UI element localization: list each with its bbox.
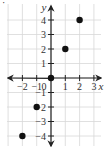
coordinate-plane: −2−101234321−1−2−3−4xy · [0,0,108,149]
x-tick-label: 2 [77,81,82,92]
y-tick-label: 3 [41,29,46,40]
data-point [48,75,54,81]
y-tick-label: −4 [35,131,46,142]
y-tick-label: 2 [41,44,46,55]
data-point [76,17,82,23]
y-tick-label: −3 [35,116,46,127]
y-tick-label: 4 [41,15,46,26]
y-tick-label: −1 [35,87,46,98]
y-tick-label: 1 [41,58,46,69]
data-point [34,104,40,110]
y-axis-label: y [41,1,47,13]
x-tick-label: 3 [91,81,96,92]
tick-labels: −2−101234321−1−2−3−4xy [17,1,103,142]
x-tick-label: 1 [63,81,68,92]
corner-mark: · [2,0,5,8]
grid-lines [7,4,101,149]
x-axis-label: x [98,80,104,92]
data-point [62,46,68,52]
axes [8,6,101,146]
x-tick-label: −2 [17,81,28,92]
data-point [19,133,25,139]
